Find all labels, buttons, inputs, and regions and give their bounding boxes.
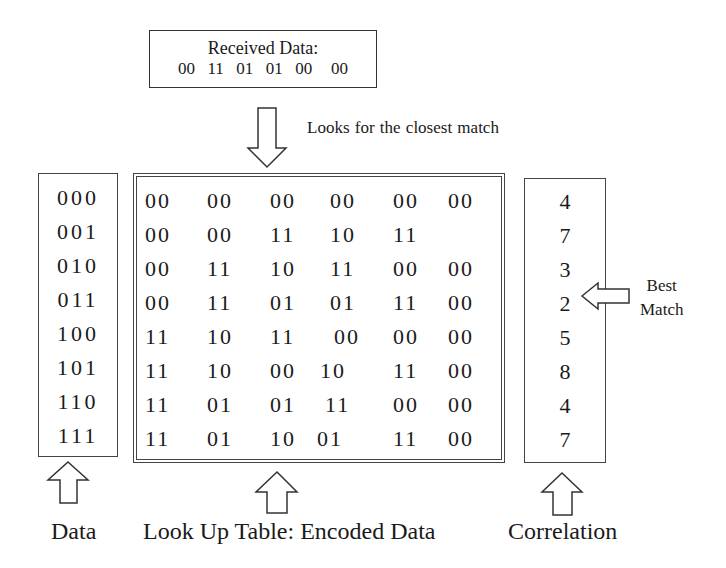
- lut-cell: 11: [330, 252, 355, 286]
- lut-cell: 11: [145, 320, 170, 354]
- lut-cell: 11: [145, 354, 170, 388]
- lut-cell: 01: [330, 286, 356, 320]
- lut-cell: 00: [270, 184, 296, 218]
- data-row: 000: [39, 181, 117, 215]
- lut-cell: 11: [270, 320, 295, 354]
- lut-cell: 00: [330, 184, 356, 218]
- lut-cell: 00: [393, 252, 419, 286]
- correlation-value: 7: [525, 219, 605, 253]
- lookup-table-box: 00 00 00 00 00 00 00 00 11 10 11 00 11 1…: [133, 173, 505, 463]
- search-caption: Looks for the closest match: [307, 118, 499, 138]
- lut-cell: 00: [145, 286, 171, 320]
- lut-cell: 10: [270, 252, 296, 286]
- lut-cell: 11: [145, 422, 170, 456]
- lookup-table-label: Look Up Table: Encoded Data: [143, 517, 435, 545]
- lut-cell: 10: [320, 354, 346, 388]
- data-row: 001: [39, 215, 117, 249]
- lut-cell: 00: [207, 184, 233, 218]
- lut-cell: 00: [207, 218, 233, 252]
- correlation-value: 4: [525, 185, 605, 219]
- lut-cell: 01: [317, 422, 343, 456]
- lut-cell: 01: [207, 422, 233, 456]
- lut-cell: 00: [448, 184, 474, 218]
- lut-cell: 00: [448, 354, 474, 388]
- lut-cell: 11: [207, 286, 232, 320]
- lut-cell: 01: [270, 286, 296, 320]
- best-match-line2: Match: [640, 298, 683, 322]
- correlation-value: 4: [525, 389, 605, 423]
- lut-cell: 01: [207, 388, 233, 422]
- lut-cell: 11: [145, 388, 170, 422]
- lut-cell: 11: [207, 252, 232, 286]
- lut-cell: 10: [207, 320, 233, 354]
- lut-cell: 00: [393, 388, 419, 422]
- lut-cell: 00: [448, 388, 474, 422]
- lut-cell: 00: [448, 252, 474, 286]
- lut-cell: 11: [270, 218, 295, 252]
- correlation-value: 3: [525, 253, 605, 287]
- lut-cell: 00: [448, 286, 474, 320]
- best-match-label: Best Match: [640, 274, 683, 322]
- data-row: 110: [39, 385, 117, 419]
- lut-cell: 00: [145, 184, 171, 218]
- data-row: 101: [39, 351, 117, 385]
- lut-cell: 00: [145, 218, 171, 252]
- lut-cell: 11: [393, 286, 418, 320]
- lut-cell: 00: [448, 320, 474, 354]
- lut-cell: 10: [270, 422, 296, 456]
- correlation-value: 5: [525, 321, 605, 355]
- up-arrow-icon: [0, 0, 1, 1]
- lut-cell: 00: [393, 184, 419, 218]
- correlation-label: Correlation: [508, 517, 617, 545]
- data-row: 111: [39, 419, 117, 453]
- lut-cell: 00: [448, 422, 474, 456]
- lut-cell: 10: [207, 354, 233, 388]
- best-match-line1: Best: [640, 274, 683, 298]
- lut-cell: 11: [393, 422, 418, 456]
- correlation-column-box: 4 7 3 2 5 8 4 7: [524, 178, 606, 463]
- lut-cell: 11: [325, 388, 350, 422]
- received-data-box: Received Data: 00 11 01 01 00 00: [149, 30, 377, 88]
- lut-cell: 00: [393, 320, 419, 354]
- lut-cell: 00: [145, 252, 171, 286]
- lut-cell: 00: [270, 354, 296, 388]
- lut-cell: 00: [334, 320, 360, 354]
- data-row: 010: [39, 249, 117, 283]
- data-row: 100: [39, 317, 117, 351]
- lut-cell: 10: [330, 218, 356, 252]
- lut-cell: 11: [393, 218, 418, 252]
- data-row: 011: [39, 283, 117, 317]
- lut-cell: 11: [393, 354, 418, 388]
- data-label: Data: [51, 517, 96, 545]
- correlation-value: 7: [525, 423, 605, 457]
- correlation-value: 8: [525, 355, 605, 389]
- received-data-title: Received Data:: [150, 38, 376, 58]
- received-data-bits: 00 11 01 01 00 00: [150, 58, 376, 80]
- data-column-box: 000 001 010 011 100 101 110 111: [38, 173, 118, 457]
- lut-cell: 01: [270, 388, 296, 422]
